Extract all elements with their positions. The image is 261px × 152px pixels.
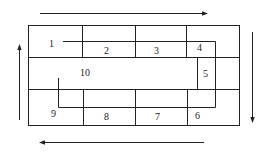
cell-label-2: 2	[104, 45, 109, 56]
cell-label-6: 6	[195, 110, 200, 121]
cell-label-7: 7	[155, 111, 160, 122]
cell-label-1: 1	[49, 38, 54, 49]
layout-diagram: 1 2 3 4 5 6 7 8 9 10	[0, 0, 261, 152]
cell-label-3: 3	[154, 45, 159, 56]
cell-label-4: 4	[197, 42, 202, 53]
cell-label-5: 5	[203, 68, 208, 79]
cell-label-9: 9	[51, 108, 56, 119]
cell-label-8: 8	[104, 111, 109, 122]
cell-label-10: 10	[80, 67, 90, 78]
